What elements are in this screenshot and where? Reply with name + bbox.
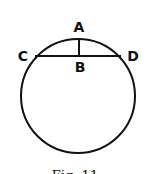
circle-chord-diagram: A B C D Fig. 11 <box>0 0 147 174</box>
label-d: D <box>127 48 139 64</box>
label-c: C <box>18 48 28 64</box>
figure-caption: Fig. 11 <box>52 168 98 174</box>
label-b: B <box>75 59 86 75</box>
label-a: A <box>74 19 85 35</box>
